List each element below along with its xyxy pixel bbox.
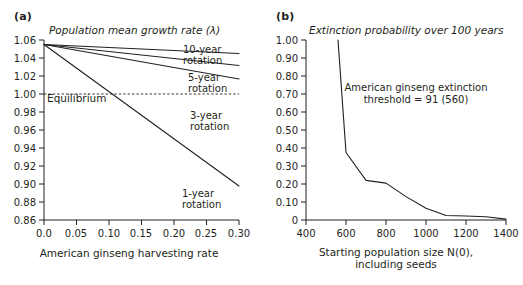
- panel-a-xtick-marks: [44, 220, 239, 225]
- series-line-5-year: [44, 45, 239, 66]
- extinction-probability-curve: [338, 40, 506, 219]
- panel-b-xtick-marks: [306, 220, 506, 225]
- series-line-10-year: [44, 45, 239, 54]
- panel-a: (a) Population mean growth rate (λ) 1.06…: [0, 0, 258, 285]
- panel-a-axes: [44, 40, 239, 220]
- series-line-1-year: [44, 45, 239, 187]
- panel-b-plot: [258, 0, 516, 285]
- panel-a-ytick-marks: [39, 40, 44, 220]
- panel-a-plot: [0, 0, 258, 285]
- panel-b-axes: [306, 40, 506, 220]
- panel-b: (b) Extinction probability over 100 year…: [258, 0, 516, 285]
- series-line-3-year: [44, 45, 239, 80]
- panel-b-ytick-marks: [301, 40, 306, 220]
